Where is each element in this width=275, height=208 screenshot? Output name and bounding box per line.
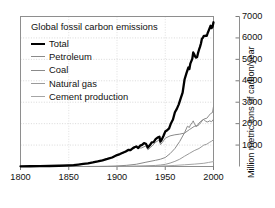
legend-label-total: Total — [49, 38, 69, 49]
legend-label-cement-production: Cement production — [49, 91, 128, 102]
y-tick-label: 4000 — [242, 75, 262, 85]
x-tick-label: 1800 — [9, 172, 33, 182]
chart-figure: Global fossil carbon emissions Million m… — [0, 0, 275, 208]
y-tick-label: 5000 — [242, 54, 262, 64]
x-tick-label: 1900 — [105, 172, 129, 182]
legend-label-natural-gas: Natural gas — [49, 78, 97, 89]
y-tick-label: 7000 — [242, 11, 262, 21]
x-tick-label: 1950 — [153, 172, 177, 182]
legend-swatch-cement-production — [31, 96, 45, 97]
legend-swatch-total — [31, 43, 45, 45]
legend-swatch-coal — [31, 70, 45, 71]
legend-swatch-petroleum — [31, 56, 45, 57]
y-tick-label: 1000 — [242, 140, 262, 150]
series-line-petroleum — [88, 107, 213, 167]
chart-title: Global fossil carbon emissions — [31, 21, 158, 32]
y-tick-label: 3000 — [242, 97, 262, 107]
legend-swatch-natural-gas — [31, 83, 45, 84]
y-tick-label: 2000 — [242, 118, 262, 128]
legend-label-petroleum: Petroleum — [49, 51, 92, 62]
x-tick-label: 2000 — [202, 172, 226, 182]
legend-label-coal: Coal — [49, 64, 68, 75]
x-tick-label: 1850 — [57, 172, 81, 182]
y-tick-label: 6000 — [242, 32, 262, 42]
